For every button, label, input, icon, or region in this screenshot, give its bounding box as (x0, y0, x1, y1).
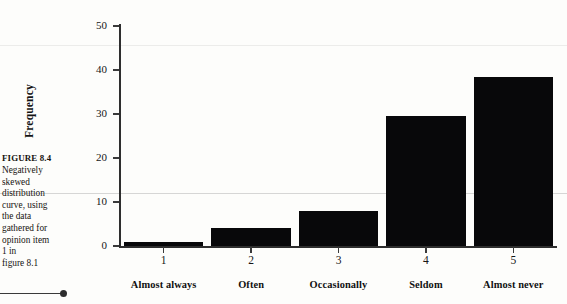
x-axis-tick-mark (425, 247, 426, 253)
y-axis-tick-label: 30 (67, 107, 107, 119)
y-axis-tick-mark (113, 157, 119, 158)
bar-5 (474, 77, 553, 246)
bar-4 (386, 116, 465, 246)
bar-2 (211, 228, 290, 246)
y-axis-tick-mark (113, 113, 119, 114)
bar-1 (124, 242, 203, 246)
y-axis-tick-label: 50 (67, 19, 107, 31)
y-axis-tick-mark (113, 201, 119, 202)
x-axis-tick-mark (338, 247, 339, 253)
plot-area (120, 26, 557, 246)
bar-3 (299, 211, 378, 246)
x-axis-tick-mark (513, 247, 514, 253)
x-axis-tick-label: 3 (319, 254, 359, 266)
y-axis-tick-label: 20 (67, 151, 107, 163)
x-axis-tick-mark (250, 247, 251, 253)
y-axis-tick-mark (113, 25, 119, 26)
y-axis-tick-label: 40 (67, 63, 107, 75)
x-axis-tick-label: 1 (144, 254, 184, 266)
category-label-5: Almost never (453, 279, 567, 290)
x-axis-tick-label: 2 (231, 254, 271, 266)
y-axis-tick-label: 0 (67, 239, 107, 251)
x-axis-tick-label: 4 (406, 254, 446, 266)
y-axis-tick-mark (113, 69, 119, 70)
y-axis-tick-label: 10 (67, 195, 107, 207)
bar-chart: Frequency 010203040501Almost always2Ofte… (0, 0, 567, 304)
x-axis-tick-mark (163, 247, 164, 253)
y-axis-label: Frequency (23, 56, 35, 166)
x-axis-tick-label: 5 (493, 254, 533, 266)
y-axis-tick-mark (113, 245, 119, 246)
